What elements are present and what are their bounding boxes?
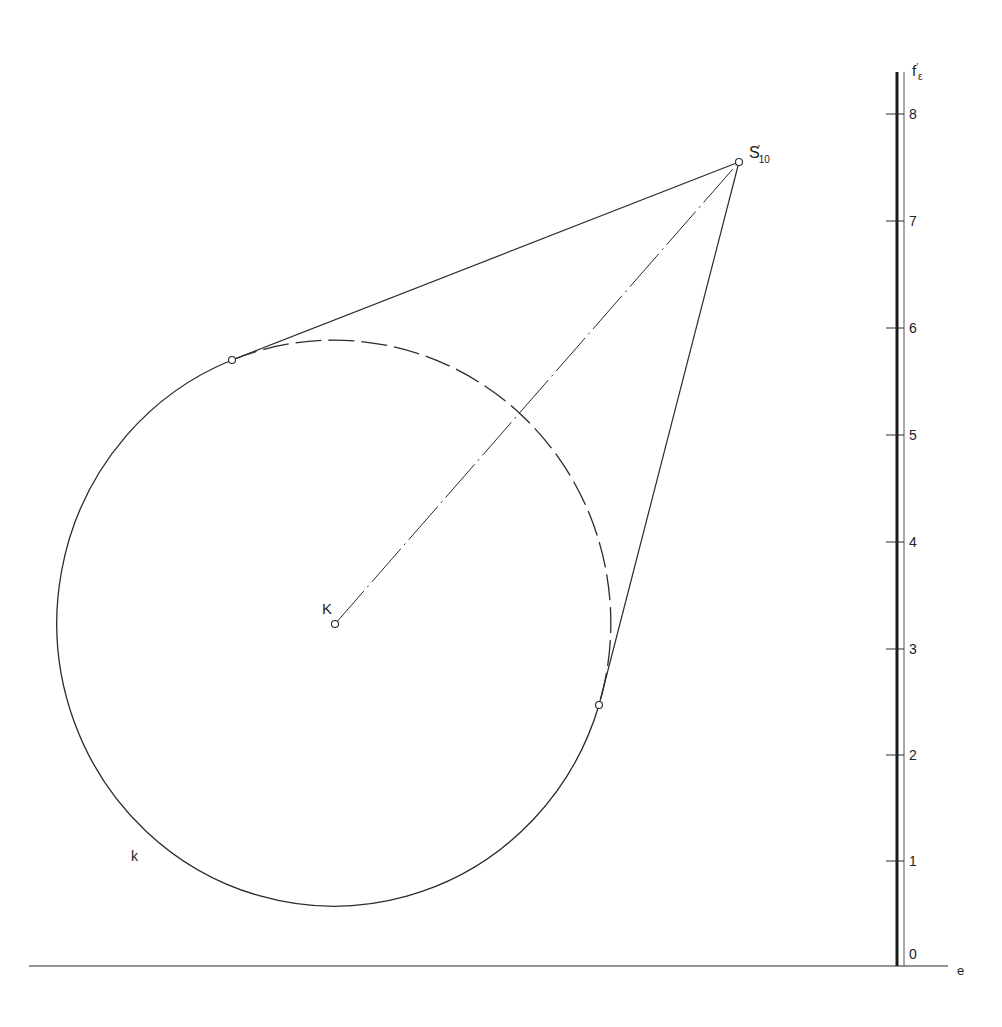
axis-label-f-epsilon: f′ε [912,62,923,82]
circle-k-visible-arc [57,360,599,906]
axis-tick-label: 1 [909,853,917,869]
diagram-canvas: 012345678 S′10 K k f′ε e [0,0,1002,1027]
axis-tick-label: 5 [909,427,917,443]
apex-label: S′10 [749,143,770,165]
circle-k-hidden-arc [232,340,611,705]
tangent-point-lower [596,702,603,709]
apex-point [736,159,743,166]
axis-tick-label: 6 [909,320,917,336]
center-label-k: K [322,600,332,617]
center-point-k [332,621,339,628]
axis-tick-label: 2 [909,747,917,763]
circle-label-k: k [131,848,139,864]
tangent-line-upper [232,162,739,360]
axis-tick-label: 0 [909,946,917,962]
tangent-point-upper [229,357,236,364]
axis-tick-label: 3 [909,641,917,657]
baseline-label-e: e [957,963,964,978]
axis-tick-label: 7 [909,213,917,229]
tangent-line-lower [599,162,739,705]
axis-tick-label: 8 [909,106,917,122]
axis-tick-label: 4 [909,534,917,550]
axis-ticks: 012345678 [886,106,917,962]
center-to-apex-dashdot-line [335,162,739,624]
